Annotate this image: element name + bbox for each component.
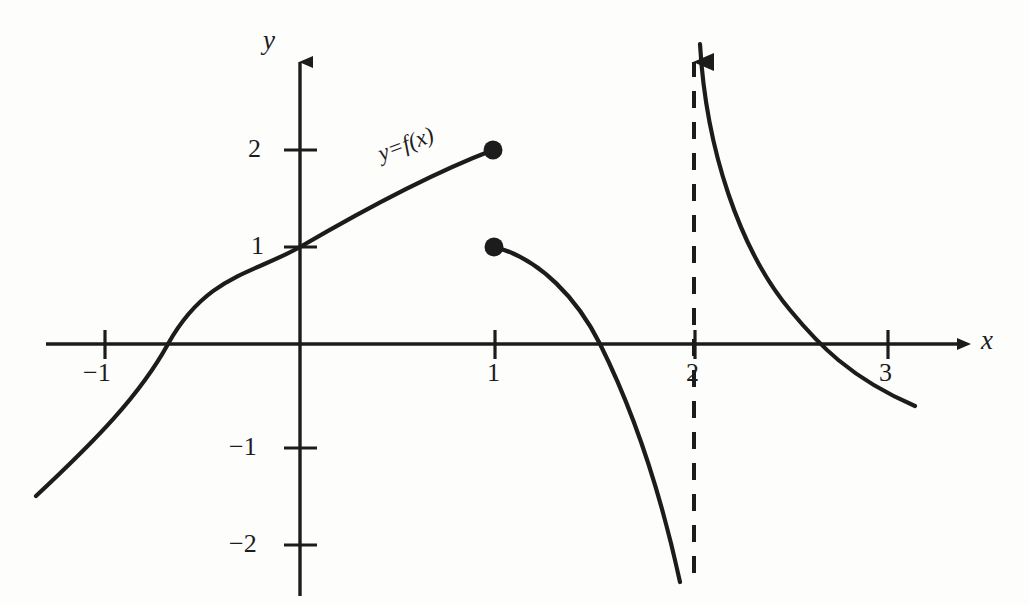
y-tick-label-2: 2 xyxy=(248,136,261,162)
curve-middle-branch xyxy=(494,247,680,582)
x-tick-label-1: 1 xyxy=(487,360,500,386)
curve-right-branch xyxy=(700,44,915,406)
endpoint-dot-1-1 xyxy=(485,238,504,257)
x-axis-label: x xyxy=(981,327,993,354)
curve-left-branch xyxy=(36,150,493,496)
x-tick-label-2: 2 xyxy=(686,360,699,386)
y-tick-label-neg1: −1 xyxy=(229,434,257,460)
endpoint-dot-1-2 xyxy=(484,141,503,160)
figure-canvas: y x −1 1 2 3 2 1 −1 −2 y=f(x) xyxy=(0,0,1029,604)
x-tick-label-neg1: −1 xyxy=(83,360,111,386)
x-tick-label-3: 3 xyxy=(879,360,892,386)
y-axis-label: y xyxy=(263,27,275,54)
y-tick-label-1: 1 xyxy=(251,233,264,259)
y-tick-label-neg2: −2 xyxy=(229,531,257,557)
function-graph-svg xyxy=(0,0,1029,604)
